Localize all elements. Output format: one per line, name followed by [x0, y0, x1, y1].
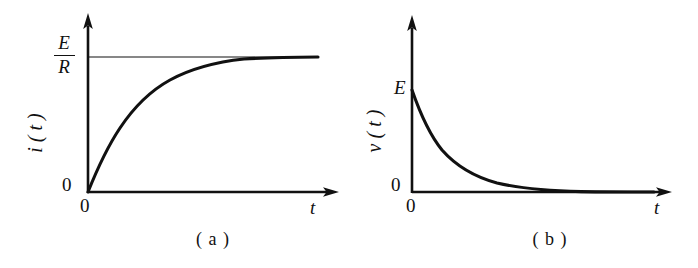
fraction-denominator-r: R — [44, 57, 84, 78]
caption-b: ( b ) — [505, 230, 595, 248]
asymptote-label-e-over-r: E R — [44, 33, 84, 78]
panel-b: E v ( t ) 0 0 t ( b ) — [349, 0, 698, 268]
y-axis-label-b-text: v ( t ) — [361, 96, 387, 166]
x-axis-label-a: t — [310, 198, 315, 217]
y-axis-label-a: i ( t ) — [22, 96, 48, 170]
y-axis-label-a-text: i ( t ) — [22, 96, 48, 170]
origin-label-x-b: 0 — [406, 196, 416, 215]
y-axis-label-b: v ( t ) — [361, 96, 387, 166]
origin-label-y-a: 0 — [62, 175, 72, 194]
panel-a: E R i ( t ) 0 0 t ( a ) — [0, 0, 349, 268]
x-axis-label-b: t — [654, 198, 659, 217]
caption-a: ( a ) — [168, 230, 258, 248]
origin-label-y-b: 0 — [391, 175, 401, 194]
curve-exponential-decay — [412, 90, 654, 192]
origin-label-x-a: 0 — [80, 196, 90, 215]
figure-root: E R i ( t ) 0 0 t ( a ) E v ( t ) 0 0 — [0, 0, 698, 268]
initial-value-label-e: E — [394, 78, 406, 97]
plot-area-b — [349, 0, 698, 268]
fraction-numerator-e: E — [44, 33, 84, 54]
curve-exponential-rise — [88, 57, 318, 192]
